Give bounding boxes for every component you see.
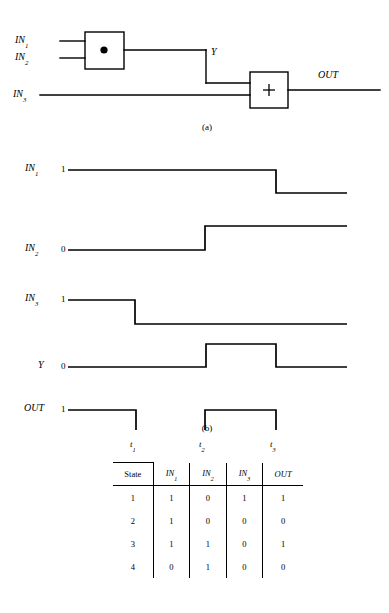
table-row: 4 0 1 0 0 (113, 555, 303, 578)
column-header-in3: IN3 (226, 463, 263, 486)
cell-out: 1 (263, 532, 303, 555)
figure-page: IN1 IN2 IN3 Y OUT (a) IN1 1 IN2 0 IN3 1 … (0, 0, 389, 613)
label-in2-circuit: IN2 (15, 52, 28, 65)
cell-in3: 0 (226, 509, 263, 532)
table-row: 2 1 0 0 0 (113, 509, 303, 532)
timing-label-in3: IN3 (25, 293, 38, 306)
or-gate-plus-icon (263, 84, 275, 96)
waveform-in3 (68, 300, 347, 324)
label-in1-circuit: IN1 (15, 35, 28, 48)
cell-state: 4 (113, 555, 153, 578)
cell-state: 2 (113, 509, 153, 532)
timing-label-out: OUT (24, 403, 44, 413)
cell-out: 0 (263, 555, 303, 578)
table-row: 3 1 1 0 1 (113, 532, 303, 555)
cell-out: 0 (263, 509, 303, 532)
timing-label-y: Y (38, 360, 44, 370)
caption-a: (a) (177, 123, 237, 132)
timing-diagram (0, 140, 389, 430)
timing-label-in1: IN1 (25, 163, 38, 176)
timing-level-in1: 1 (61, 165, 66, 174)
time-marker-t3: t3 (270, 440, 276, 451)
column-header-out: OUT (263, 463, 303, 486)
cell-in2: 0 (190, 486, 227, 510)
state-table-body: 1 1 0 1 1 2 1 0 0 0 3 1 1 0 1 4 (113, 486, 303, 579)
cell-in1: 0 (153, 555, 190, 578)
label-in3-circuit: IN3 (13, 89, 26, 102)
timing-level-out: 1 (61, 405, 66, 414)
cell-in1: 1 (153, 509, 190, 532)
cell-in3: 1 (226, 486, 263, 510)
label-out-circuit: OUT (318, 70, 338, 80)
time-marker-t1: t1 (130, 440, 136, 451)
caption-b: (b) (177, 424, 237, 433)
cell-in3: 0 (226, 532, 263, 555)
cell-in2: 0 (190, 509, 227, 532)
timing-label-in2: IN2 (25, 243, 38, 256)
and-gate-dot-icon (100, 46, 107, 53)
state-table-header: State IN1 IN2 IN3 OUT (113, 463, 303, 486)
cell-state: 1 (113, 486, 153, 510)
cell-in1: 1 (153, 532, 190, 555)
waveform-in2 (68, 226, 347, 250)
waveform-y (68, 344, 347, 367)
timing-level-in3: 1 (61, 295, 66, 304)
cell-state: 3 (113, 532, 153, 555)
cell-out: 1 (263, 486, 303, 510)
timing-level-in2: 0 (61, 245, 66, 254)
column-header-in2: IN2 (190, 463, 227, 486)
column-header-state: State (113, 463, 153, 486)
cell-in2: 1 (190, 555, 227, 578)
label-y-signal: Y (211, 47, 217, 57)
column-header-in1: IN1 (153, 463, 190, 486)
cell-in2: 1 (190, 532, 227, 555)
time-marker-t2: t2 (199, 440, 205, 451)
cell-in1: 1 (153, 486, 190, 510)
state-table: State IN1 IN2 IN3 OUT 1 1 0 1 1 2 1 0 0 … (113, 462, 303, 578)
table-row: 1 1 0 1 1 (113, 486, 303, 510)
timing-level-y: 0 (61, 362, 66, 371)
waveform-in1 (68, 170, 347, 193)
table-header-row: State IN1 IN2 IN3 OUT (113, 463, 303, 486)
cell-in3: 0 (226, 555, 263, 578)
